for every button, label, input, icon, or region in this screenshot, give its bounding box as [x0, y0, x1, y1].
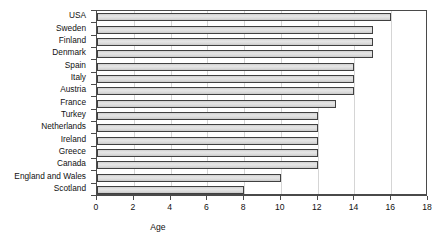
bar — [97, 38, 373, 46]
x-axis-tick-label: 6 — [194, 202, 218, 212]
bar — [97, 137, 318, 145]
y-axis-tick — [91, 146, 96, 147]
x-axis-tick — [96, 196, 97, 200]
y-axis-tick — [91, 22, 96, 23]
bar — [97, 75, 354, 83]
x-axis-tick-label: 2 — [121, 202, 145, 212]
y-axis-category-labels: USASwedenFinlandDenmarkSpainItalyAustria… — [0, 10, 90, 195]
y-axis-category-label: Greece — [59, 147, 86, 156]
y-axis-category-label: Spain — [65, 61, 86, 70]
x-axis-tick — [353, 196, 354, 200]
y-axis-category-label: Sweden — [56, 24, 86, 33]
y-axis-tick — [91, 183, 96, 184]
y-axis-tick — [91, 170, 96, 171]
x-axis-tick-label: 4 — [158, 202, 182, 212]
bar — [97, 63, 354, 71]
bar — [97, 100, 336, 108]
y-axis-tick — [91, 35, 96, 36]
x-axis-tick-label: 16 — [378, 202, 402, 212]
bar — [97, 13, 391, 21]
y-axis-category-label: Turkey — [61, 110, 86, 119]
y-axis-tick — [91, 121, 96, 122]
x-axis-tick-label: 12 — [305, 202, 329, 212]
gridline — [391, 11, 392, 194]
y-axis-tick — [91, 109, 96, 110]
y-axis-category-label: England and Wales — [14, 172, 86, 181]
y-axis-tick — [91, 133, 96, 134]
y-axis-tick — [91, 47, 96, 48]
y-axis-tick — [91, 96, 96, 97]
y-axis-category-label: Scotland — [54, 184, 86, 193]
x-axis-tick — [427, 196, 428, 200]
bar — [97, 26, 373, 34]
y-axis-tick — [91, 10, 96, 11]
bar — [97, 149, 318, 157]
bar — [97, 124, 318, 132]
x-axis-tick — [170, 196, 171, 200]
x-axis-line — [96, 195, 427, 196]
bar — [97, 186, 244, 194]
x-axis-tick-label: 8 — [231, 202, 255, 212]
plot-area — [96, 10, 427, 195]
x-axis-tick — [317, 196, 318, 200]
x-axis-tick-label: 14 — [341, 202, 365, 212]
bar — [97, 112, 318, 120]
bar — [97, 161, 318, 169]
y-axis-category-label: France — [60, 98, 86, 107]
y-axis-category-label: Finland — [59, 36, 86, 45]
x-axis-tick — [206, 196, 207, 200]
y-axis-category-label: Denmark — [52, 48, 86, 57]
x-axis-tick — [390, 196, 391, 200]
y-axis-category-label: Italy — [71, 73, 86, 82]
x-axis-tick — [243, 196, 244, 200]
y-axis-category-label: Canada — [57, 159, 86, 168]
y-axis-category-label: Ireland — [61, 135, 86, 144]
bar — [97, 174, 281, 182]
x-axis-tick — [133, 196, 134, 200]
bar-chart: USASwedenFinlandDenmarkSpainItalyAustria… — [0, 0, 447, 242]
y-axis-tick — [91, 59, 96, 60]
bar — [97, 50, 373, 58]
y-axis-category-label: USA — [69, 11, 86, 20]
x-axis-title-label: Age — [150, 222, 165, 232]
y-axis-category-label: Netherlands — [41, 122, 86, 131]
y-axis-category-label: Austria — [60, 85, 86, 94]
x-axis-tick-label: 10 — [268, 202, 292, 212]
y-axis-tick — [91, 158, 96, 159]
bar — [97, 87, 354, 95]
y-axis-tick — [91, 84, 96, 85]
x-axis-tick — [280, 196, 281, 200]
x-axis-title: Age — [0, 222, 447, 232]
x-axis-tick-label: 18 — [415, 202, 439, 212]
y-axis-tick — [91, 72, 96, 73]
x-axis-tick-label: 0 — [84, 202, 108, 212]
